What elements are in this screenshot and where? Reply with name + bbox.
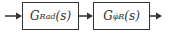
block-g-rad: GRad(s) <box>22 2 79 30</box>
block-g-rad-arg: (s) <box>56 9 72 23</box>
block-g-phidot-r-sub: φ̇R <box>113 12 125 21</box>
block-g-phidot-r: Gφ̇R(s) <box>93 2 150 30</box>
block-g-phidot-r-main: G <box>103 9 113 23</box>
block-g-phidot-r-arg: (s) <box>124 9 140 23</box>
block-g-rad-sub: Rad <box>39 12 55 21</box>
